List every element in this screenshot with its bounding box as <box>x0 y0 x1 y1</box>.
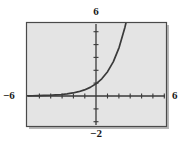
x-axis-max-label: 6 <box>172 90 178 101</box>
y-axis-max-label: 6 <box>3 6 186 17</box>
x-axis-min-label: −6 <box>3 90 15 101</box>
y-axis-min-label: −2 <box>3 128 186 139</box>
graph-figure: 6 −2 −6 6 <box>0 0 186 145</box>
coordinate-plane-plot <box>0 0 186 145</box>
